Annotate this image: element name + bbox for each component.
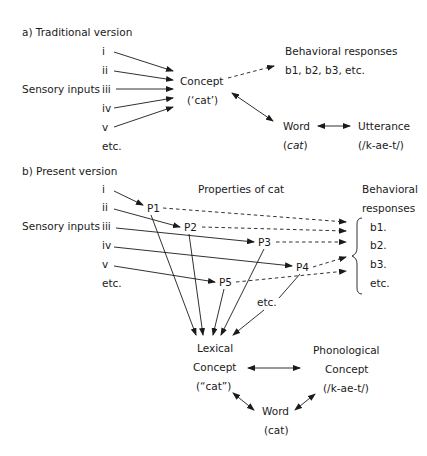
- word-label: Word: [283, 120, 310, 132]
- response-etc: etc.: [370, 277, 390, 289]
- concept-word-arrow: [232, 93, 273, 121]
- word-label-b: Word: [262, 405, 289, 417]
- property-p5: P5: [219, 276, 232, 288]
- lexical-word-arrow: [233, 393, 254, 410]
- input-b-v: v: [102, 258, 108, 270]
- input-b-ii: ii: [102, 201, 108, 213]
- input-v: v: [102, 121, 108, 133]
- concept-diagram: a) Traditional version Sensory inputs i …: [0, 0, 427, 456]
- section-b-title: b) Present version: [22, 165, 117, 177]
- utterance-phonemes: (/k-ae-t/): [358, 139, 404, 151]
- utterance-label: Utterance: [358, 120, 410, 132]
- property-to-lexical-arrows: [151, 215, 300, 335]
- phonological-concept-label: Concept: [325, 363, 368, 375]
- response-b3: b3.: [370, 258, 387, 270]
- concept-cat: (‘cat’): [187, 94, 218, 106]
- word-cat: (cat): [283, 139, 308, 151]
- behavioral-responses-label: Behavioral responses: [285, 45, 397, 57]
- input-b-i: i: [102, 183, 105, 195]
- properties-label: Properties of cat: [198, 183, 284, 195]
- lexical-cat: (“cat”): [196, 380, 231, 392]
- input-b-etc: etc.: [102, 277, 122, 289]
- response-b1: b1.: [370, 221, 387, 233]
- word-cat-b: (cat): [264, 424, 289, 436]
- responses-label-b: responses: [362, 202, 415, 214]
- behavioral-responses-list: b1, b2, b3, etc.: [285, 64, 365, 76]
- input-arrows: [114, 52, 173, 127]
- input-b-iv: iv: [102, 239, 111, 251]
- concept-to-behavior-arrow: [228, 66, 274, 78]
- lexical-concept-label: Concept: [193, 361, 236, 373]
- response-b2: b2.: [370, 239, 387, 251]
- property-p1: P1: [147, 202, 160, 214]
- sensory-inputs-label: Sensory inputs: [22, 83, 100, 95]
- property-p4: P4: [296, 261, 309, 273]
- sensory-inputs-label-b: Sensory inputs: [22, 220, 100, 232]
- input-b-iii: iii: [102, 220, 111, 232]
- concept-label: Concept: [180, 75, 223, 87]
- section-present: b) Present version Sensory inputs i ii i…: [22, 165, 418, 436]
- lexical-label: Lexical: [197, 342, 233, 354]
- phonological-label: Phonological: [313, 344, 380, 356]
- phonological-phonemes: (/k-ae-t/): [323, 382, 369, 394]
- property-p3: P3: [258, 236, 271, 248]
- input-ii: ii: [102, 64, 108, 76]
- section-traditional: a) Traditional version Sensory inputs i …: [22, 26, 410, 152]
- response-brace: [352, 218, 362, 294]
- properties-etc: etc.: [257, 296, 277, 308]
- input-i: i: [102, 45, 105, 57]
- input-iii: iii: [102, 83, 111, 95]
- section-a-title: a) Traditional version: [22, 26, 132, 38]
- input-iv: iv: [102, 102, 111, 114]
- property-p2: P2: [184, 221, 197, 233]
- input-etc: etc.: [102, 140, 122, 152]
- behavioral-label-b: Behavioral: [362, 183, 418, 195]
- phonological-word-arrow: [295, 394, 315, 410]
